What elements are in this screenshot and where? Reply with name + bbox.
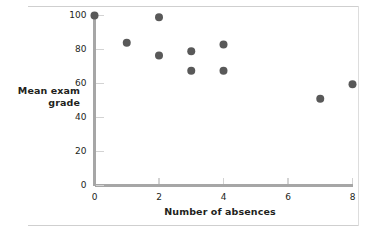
data-point	[155, 51, 163, 59]
x-axis-label: Number of absences	[120, 206, 320, 218]
data-points-group	[91, 12, 357, 103]
x-tick-label: 8	[343, 192, 363, 202]
plot-canvas	[0, 0, 366, 233]
data-point	[316, 95, 324, 103]
y-tick-label: 20	[63, 146, 87, 156]
y-tick-label: 0	[63, 180, 87, 190]
data-point	[187, 67, 195, 75]
x-tick-label: 4	[214, 192, 234, 202]
x-tick-label: 6	[278, 192, 298, 202]
x-tick-label: 2	[149, 192, 169, 202]
y-tick-label: 80	[63, 44, 87, 54]
y-axis-label-line1: Mean exam	[8, 85, 80, 97]
data-point	[91, 12, 99, 20]
x-tick-label: 0	[85, 192, 105, 202]
data-point	[123, 39, 131, 47]
data-point	[187, 47, 195, 55]
data-point	[220, 67, 228, 75]
y-tick-label: 40	[63, 112, 87, 122]
y-axis-label: Mean exam grade	[8, 85, 80, 108]
y-axis-label-line2: grade	[8, 97, 80, 109]
scatterplot-figure: 020406080100 02468 Mean exam grade Numbe…	[0, 0, 366, 233]
data-point	[349, 80, 357, 88]
y-tick-label: 100	[63, 10, 87, 20]
data-point	[220, 40, 228, 48]
axes-group	[95, 15, 353, 186]
data-point	[155, 13, 163, 21]
